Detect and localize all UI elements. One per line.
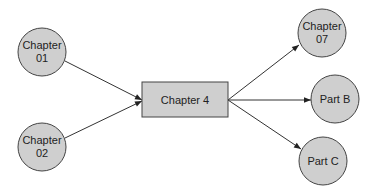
node-label-line2: 02 [36,147,48,159]
node-label-line1: Chapter [22,134,61,146]
node-label-line1: Chapter [22,39,61,51]
edge-ch01-to-ch4 [65,61,142,100]
flow-diagram: Chapter 4 Chapter 01 Chapter 02 Chapter … [0,0,377,193]
edge-ch4-to-partC [228,100,301,149]
node-part-b: Part B [311,75,359,123]
node-label-line2: 07 [316,33,328,45]
node-chapter-4: Chapter 4 [142,82,228,117]
node-label: Part C [307,155,338,167]
node-label: Part B [320,93,351,105]
edge-ch02-to-ch4 [65,101,142,138]
node-part-c: Part C [299,137,347,185]
edge-ch4-to-ch07 [228,45,299,100]
node-chapter-02: Chapter 02 [18,123,66,171]
node-label-line2: 01 [36,52,48,64]
node-chapter-01: Chapter 01 [18,28,66,76]
node-chapter-07: Chapter 07 [298,9,346,57]
node-label: Chapter 4 [161,94,209,106]
node-label-line1: Chapter [302,20,341,32]
